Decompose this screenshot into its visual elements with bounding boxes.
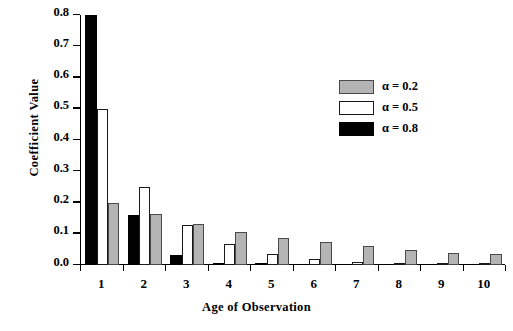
bar xyxy=(309,259,320,265)
x-axis-tick-label: 1 xyxy=(81,276,121,292)
legend-item: α = 0.5 xyxy=(339,97,418,118)
y-axis-tick-label: 0.8 xyxy=(53,5,69,20)
bar xyxy=(224,244,235,265)
y-axis-tick-label: 0.6 xyxy=(53,67,69,82)
x-axis-tick xyxy=(505,265,506,271)
y-axis-tick: 0.1 xyxy=(73,232,80,233)
y-axis-tick-label: 0.3 xyxy=(53,161,69,176)
bar xyxy=(363,246,374,265)
x-axis-tick xyxy=(420,265,421,271)
y-axis-tick: 0.0 xyxy=(73,264,80,265)
bar xyxy=(139,187,150,265)
y-axis-tick: 0.4 xyxy=(73,139,80,140)
bar xyxy=(170,255,181,265)
bar xyxy=(235,232,246,265)
x-axis-tick-label: 10 xyxy=(464,276,504,292)
bar xyxy=(352,262,363,265)
bar xyxy=(128,215,139,265)
x-axis-tick-label: 5 xyxy=(251,276,291,292)
bar xyxy=(267,254,278,265)
y-axis-tick-label: 0.4 xyxy=(53,130,69,145)
legend-swatch xyxy=(339,122,374,136)
x-axis-tick-label: 6 xyxy=(294,276,334,292)
plot-area: 0.00.10.20.30.40.50.60.70.8 12345678910 xyxy=(80,15,505,265)
x-axis-tick-label: 9 xyxy=(421,276,461,292)
y-axis-tick-label: 0.7 xyxy=(53,36,69,51)
bar xyxy=(213,263,224,266)
bar xyxy=(97,109,108,265)
x-axis-tick xyxy=(250,265,251,271)
legend-swatch xyxy=(339,80,374,94)
legend-label: α = 0.5 xyxy=(382,100,418,115)
bar xyxy=(278,238,289,266)
bar xyxy=(108,203,119,266)
x-axis-tick xyxy=(293,265,294,271)
bar xyxy=(479,263,490,265)
legend-label: α = 0.8 xyxy=(382,121,418,136)
x-axis-tick xyxy=(208,265,209,271)
legend-item: α = 0.8 xyxy=(339,118,418,139)
bar xyxy=(448,253,459,266)
legend-swatch xyxy=(339,101,374,115)
y-axis-tick: 0.5 xyxy=(73,107,80,108)
legend-item: α = 0.2 xyxy=(339,76,418,97)
y-axis-tick-label: 0.2 xyxy=(53,192,69,207)
x-axis-tick-label: 4 xyxy=(209,276,249,292)
legend-label: α = 0.2 xyxy=(382,79,418,94)
bar-chart-figure: Coefficient Value 0.00.10.20.30.40.50.60… xyxy=(0,0,513,331)
x-axis-tick xyxy=(80,265,81,271)
y-axis-tick: 0.6 xyxy=(73,76,80,77)
y-axis-title: Coefficient Value xyxy=(27,28,42,228)
y-axis-tick: 0.3 xyxy=(73,170,80,171)
y-axis-tick: 0.8 xyxy=(73,14,80,15)
x-axis-tick xyxy=(165,265,166,271)
x-axis-tick xyxy=(463,265,464,271)
x-axis-tick xyxy=(335,265,336,271)
bar xyxy=(437,263,448,265)
x-axis-tick xyxy=(123,265,124,271)
y-axis-tick: 0.2 xyxy=(73,201,80,202)
bar xyxy=(182,225,193,265)
x-axis-tick-label: 8 xyxy=(379,276,419,292)
y-axis-line xyxy=(80,15,81,265)
bar xyxy=(320,242,331,265)
x-axis-title: Age of Observation xyxy=(0,300,513,315)
bar xyxy=(85,15,96,265)
chart-legend: α = 0.2α = 0.5α = 0.8 xyxy=(339,76,418,139)
x-axis-tick-label: 2 xyxy=(124,276,164,292)
bar xyxy=(193,224,204,265)
y-axis-tick: 0.7 xyxy=(73,45,80,46)
y-axis-tick-label: 0.5 xyxy=(53,98,69,113)
bar xyxy=(405,250,416,265)
bar xyxy=(490,254,501,265)
y-axis-tick-label: 0.0 xyxy=(53,255,69,270)
x-axis-tick-label: 3 xyxy=(166,276,206,292)
x-axis-tick-label: 7 xyxy=(336,276,376,292)
x-axis-tick xyxy=(378,265,379,271)
y-axis-tick-label: 0.1 xyxy=(53,223,69,238)
bar xyxy=(150,214,161,265)
bar xyxy=(394,263,405,265)
bar xyxy=(255,263,266,265)
